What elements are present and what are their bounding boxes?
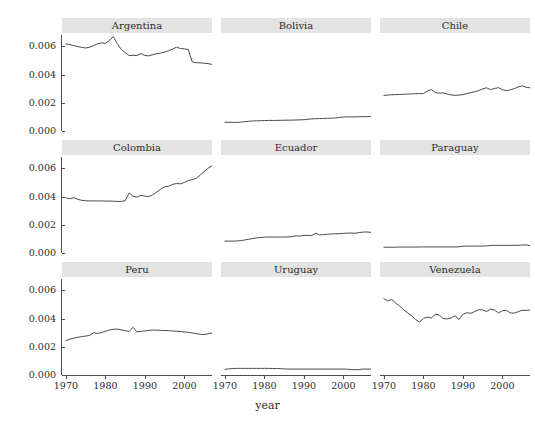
series-line-venezuela: [380, 279, 530, 375]
y-axis-tick-label: 0.006: [29, 285, 56, 295]
x-axis: 1970198019902000: [380, 375, 530, 393]
y-axis-tick-label: 0.002: [29, 220, 56, 230]
y-axis-tick-label: 0.006: [29, 163, 56, 173]
plot-panel: [221, 35, 371, 131]
x-axis-tick-label: 1990: [451, 380, 475, 391]
y-axis-tick: [62, 131, 65, 132]
x-axis-spine: [221, 375, 371, 376]
facet-panel-venezuela: Venezuela: [380, 262, 530, 375]
facet-panel-paraguay: Paraguay: [380, 140, 530, 253]
x-axis-tick: [384, 376, 385, 379]
facet-strip-label: Venezuela: [380, 262, 530, 277]
facet-panel-colombia: Colombia: [62, 140, 212, 253]
y-axis-spine: [61, 157, 62, 253]
y-axis-tick: [62, 253, 65, 254]
x-axis-tick: [184, 376, 185, 379]
x-axis-tick-label: 2000: [490, 380, 514, 391]
x-axis-tick-label: 1970: [372, 380, 396, 391]
y-axis-tick-label: 0.000: [29, 126, 56, 136]
x-axis-tick-label: 1980: [411, 380, 435, 391]
y-axis-tick-label: 0.000: [29, 248, 56, 258]
facet-panel-argentina: Argentina: [62, 18, 212, 131]
series-line-uruguay: [221, 279, 371, 375]
x-axis: 1970198019902000: [221, 375, 371, 393]
facet-row: Argentina Bolivia Chile: [62, 18, 530, 131]
y-axis-tick-label: 0.004: [29, 192, 56, 202]
x-axis-tick: [264, 376, 265, 379]
y-axis-tick-label: 0.004: [29, 70, 56, 80]
y-axis-tick-label: 0.000: [29, 370, 56, 380]
plot-panel: [380, 35, 530, 131]
y-axis-tick-label: 0.004: [29, 314, 56, 324]
y-axis-spine: [61, 279, 62, 375]
facet-panel-bolivia: Bolivia: [221, 18, 371, 131]
x-axis-tick-label: 1980: [252, 380, 276, 391]
y-axis-tick: [62, 103, 65, 104]
facet-row: Peru Uruguay Venezuela: [62, 262, 530, 375]
plot-panel: [221, 157, 371, 253]
facet-panel-chile: Chile: [380, 18, 530, 131]
x-axis-tick-label: 2000: [172, 380, 196, 391]
series-line-peru: [62, 279, 212, 375]
x-axis-spine: [62, 375, 212, 376]
facet-strip-label: Chile: [380, 18, 530, 33]
facet-panel-peru: Peru: [62, 262, 212, 375]
x-axis-tick-label: 1990: [133, 380, 157, 391]
series-line-paraguay: [380, 157, 530, 253]
series-line-colombia: [62, 157, 212, 253]
y-axis-tick: [62, 290, 65, 291]
y-axis-tick-label: 0.002: [29, 98, 56, 108]
facet-strip-label: Ecuador: [221, 140, 371, 155]
y-axis: 0.0000.0020.0040.006: [2, 157, 62, 253]
y-axis-tick-label: 0.006: [29, 41, 56, 51]
y-axis-tick: [62, 347, 65, 348]
facet-panel-ecuador: Ecuador: [221, 140, 371, 253]
x-axis-tick-label: 1990: [292, 380, 316, 391]
x-axis-tick: [145, 376, 146, 379]
facet-strip-label: Bolivia: [221, 18, 371, 33]
y-axis-tick: [62, 319, 65, 320]
y-axis: 0.0000.0020.0040.006: [2, 35, 62, 131]
x-axis-tick-label: 2000: [331, 380, 355, 391]
x-axis-tick: [66, 376, 67, 379]
facet-strip-label: Paraguay: [380, 140, 530, 155]
x-axis-tick-label: 1970: [213, 380, 237, 391]
x-axis-title: year: [0, 399, 535, 412]
plot-panel: [380, 157, 530, 253]
plot-panel: [62, 279, 212, 375]
y-axis-tick: [62, 46, 65, 47]
x-axis-tick-label: 1980: [93, 380, 117, 391]
x-axis-tick-label: 1970: [54, 380, 78, 391]
plot-panel: [221, 279, 371, 375]
y-axis-tick: [62, 168, 65, 169]
x-axis-tick: [343, 376, 344, 379]
x-axis-tick: [304, 376, 305, 379]
x-axis-tick: [225, 376, 226, 379]
x-axis-spine: [380, 375, 530, 376]
facet-grid: Argentina Bolivia Chile Colombia Ecuador: [62, 18, 530, 373]
x-axis-tick: [423, 376, 424, 379]
y-axis-tick: [62, 75, 65, 76]
facet-strip-label: Uruguay: [221, 262, 371, 277]
series-line-bolivia: [221, 35, 371, 131]
x-axis: 1970198019902000: [62, 375, 212, 393]
facet-strip-label: Colombia: [62, 140, 212, 155]
series-line-argentina: [62, 35, 212, 131]
facet-line-chart: country_power year Argentina Bolivia Chi…: [0, 0, 535, 422]
x-axis-tick: [105, 376, 106, 379]
x-axis-tick: [502, 376, 503, 379]
y-axis-spine: [61, 35, 62, 131]
y-axis-tick: [62, 197, 65, 198]
plot-panel: [62, 35, 212, 131]
y-axis-tick-label: 0.002: [29, 342, 56, 352]
facet-row: Colombia Ecuador Paraguay: [62, 140, 530, 253]
series-line-chile: [380, 35, 530, 131]
facet-panel-uruguay: Uruguay: [221, 262, 371, 375]
facet-strip-label: Argentina: [62, 18, 212, 33]
plot-panel: [62, 157, 212, 253]
plot-panel: [380, 279, 530, 375]
y-axis: 0.0000.0020.0040.006: [2, 279, 62, 375]
series-line-ecuador: [221, 157, 371, 253]
x-axis-tick: [463, 376, 464, 379]
facet-strip-label: Peru: [62, 262, 212, 277]
